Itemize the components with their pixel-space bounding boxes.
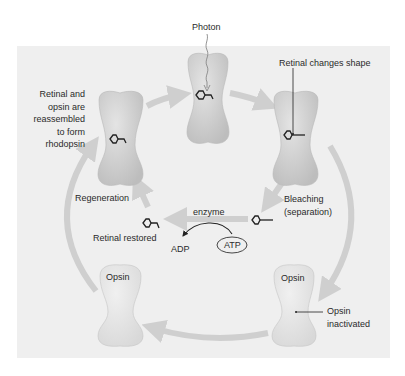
arrow-left-to-top (147, 95, 180, 106)
arrow-opsin-left-to-top (67, 146, 96, 291)
retinal-restored-label: Retinal restored (93, 232, 157, 245)
arrow-bleaching (268, 183, 282, 203)
arrow-opsin-right-to-left (153, 328, 268, 338)
arrow-regeneration (138, 185, 148, 207)
regeneration-label: Regeneration (75, 192, 129, 205)
atp-to-adp-arrow (183, 223, 232, 236)
reassembled-label: Retinal and opsin are reassembled to for… (18, 88, 85, 151)
bleaching-label: Bleaching (separation) (284, 193, 332, 218)
adp-label: ADP (171, 243, 190, 256)
opsin-right-label: Opsin (281, 272, 305, 285)
photon-label: Photon (192, 21, 221, 34)
enzyme-label: enzyme (193, 206, 225, 219)
rhodopsin-left (98, 91, 143, 185)
rhodopsin-right (273, 91, 318, 185)
retinal-bent-icon-restored (143, 219, 159, 228)
retinal-changes-shape-label: Retinal changes shape (279, 57, 371, 70)
opsin-left-label: Opsin (106, 271, 130, 284)
retinal-straight-icon-free (252, 216, 273, 224)
arrow-top-to-right (230, 93, 267, 104)
opsin-inactivated-label: Opsin inactivated (327, 305, 370, 330)
atp-label: ATP (224, 239, 241, 252)
rhodopsin-top (187, 53, 229, 143)
arrow-right-to-opsin (325, 146, 351, 292)
